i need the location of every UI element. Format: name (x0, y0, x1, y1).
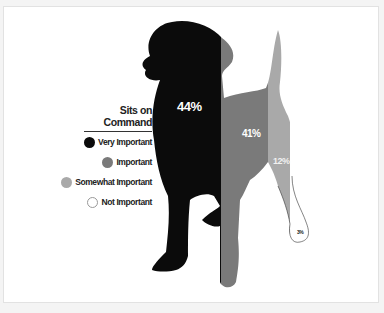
band-not-important (290, 0, 330, 313)
legend-title: Sits on Command (84, 104, 152, 132)
legend-item-somewhat-important: Somewhat Important (56, 172, 152, 192)
legend: Sits on Command Very Important Important… (56, 104, 152, 212)
legend-label: Important (116, 157, 152, 167)
swatch-icon (84, 137, 95, 148)
legend-label: Very Important (98, 137, 152, 147)
swatch-icon (87, 197, 98, 208)
legend-item-not-important: Not Important (56, 192, 152, 212)
legend-item-very-important: Very Important (56, 132, 152, 152)
legend-label: Somewhat Important (75, 177, 152, 187)
band-important (221, 0, 268, 313)
legend-item-important: Important (56, 152, 152, 172)
swatch-icon (102, 157, 113, 168)
swatch-icon (61, 177, 72, 188)
legend-label: Not Important (101, 197, 152, 207)
label-very-important: 44% (177, 99, 202, 114)
label-not-important: 3% (297, 229, 303, 235)
label-somewhat-important: 12% (273, 156, 290, 166)
label-important: 41% (242, 128, 261, 139)
